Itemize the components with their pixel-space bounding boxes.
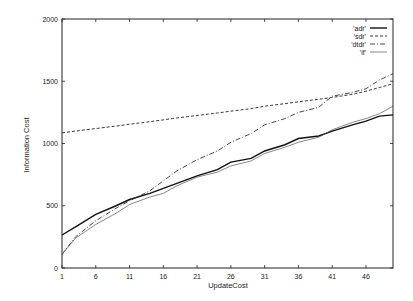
legend-label: 'sdr' — [354, 33, 366, 40]
x-tick-label: 1 — [60, 273, 64, 280]
y-tick-label: 2000 — [42, 16, 58, 23]
series-line — [62, 106, 393, 254]
y-tick-label: 1500 — [42, 78, 58, 85]
legend-label: 'if' — [360, 49, 366, 56]
legend-label: 'dtdr' — [351, 41, 366, 48]
legend-label: 'adr' — [353, 25, 366, 32]
x-tick-label: 16 — [159, 273, 167, 280]
x-tick-label: 11 — [126, 273, 133, 280]
y-axis-label: Information Cost — [22, 117, 31, 173]
y-tick-label: 500 — [46, 202, 58, 209]
y-tick-label: 1000 — [42, 140, 58, 147]
x-tick-label: 41 — [328, 273, 336, 280]
y-tick-label: 0 — [54, 265, 58, 272]
x-tick-label: 36 — [295, 273, 303, 280]
x-axis-label: UpdateCost — [208, 281, 249, 290]
x-tick-label: 21 — [193, 273, 201, 280]
line-chart: 1611162126313641460500100015002000 'adr'… — [0, 0, 413, 301]
x-tick-label: 31 — [261, 273, 269, 280]
series-line — [62, 115, 393, 235]
plot-frame — [62, 19, 393, 268]
x-tick-label: 46 — [362, 273, 370, 280]
x-tick-label: 26 — [227, 273, 235, 280]
x-tick-label: 6 — [94, 273, 98, 280]
